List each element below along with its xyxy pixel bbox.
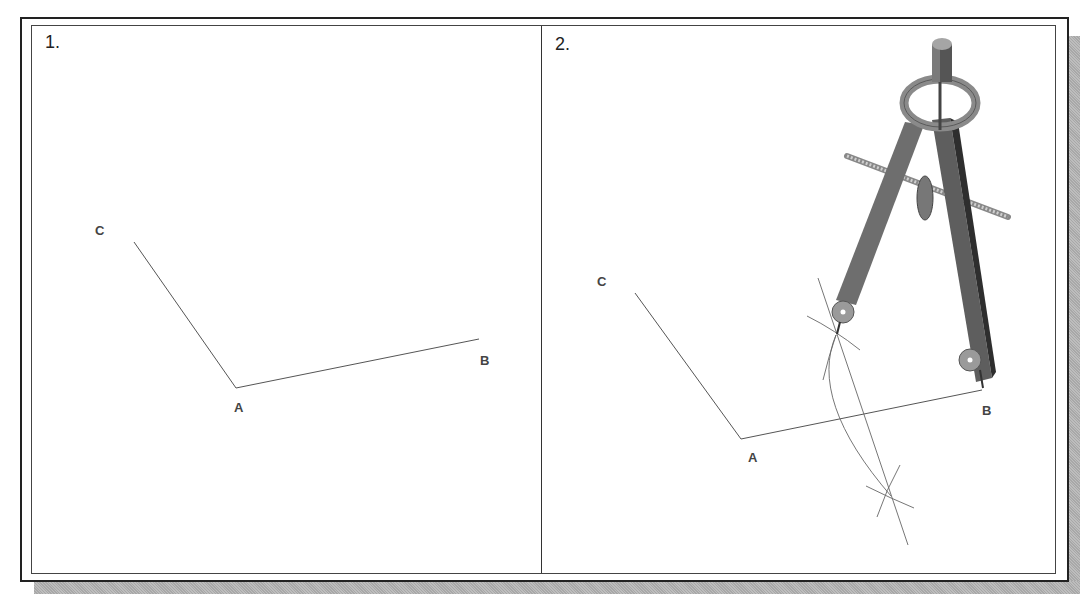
line-ac xyxy=(635,293,741,439)
line-ac xyxy=(134,242,236,388)
panel-2-angle xyxy=(635,293,982,439)
panel-1-angle xyxy=(134,242,479,388)
lower-arc-mark-2 xyxy=(866,486,914,508)
line-ab xyxy=(741,390,982,439)
large-arc xyxy=(829,335,891,496)
line-ab xyxy=(236,339,479,388)
lower-arc-mark-1 xyxy=(877,465,900,517)
upper-arc-mark xyxy=(807,316,860,350)
construction-drawing xyxy=(0,0,1091,600)
compass-icon xyxy=(832,38,1008,388)
construction-arcs xyxy=(807,278,914,545)
bisector-line xyxy=(818,278,908,545)
